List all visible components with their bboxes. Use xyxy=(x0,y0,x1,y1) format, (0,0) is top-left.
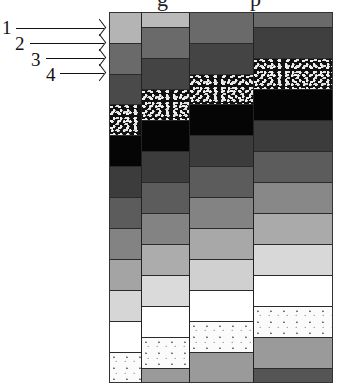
gray-layer xyxy=(190,260,253,291)
gray-layer xyxy=(190,353,253,383)
label-4: 4 xyxy=(46,65,56,84)
speckled-layer xyxy=(142,90,189,121)
dotted-layer xyxy=(254,307,333,338)
gray-layer xyxy=(190,13,253,44)
gray-layer xyxy=(110,44,141,75)
speckled-layer xyxy=(190,75,253,105)
column-3 xyxy=(190,13,254,383)
gray-layer xyxy=(142,276,189,307)
column-1 xyxy=(110,13,142,383)
gray-layer xyxy=(254,90,333,121)
title-fragment-left: g xyxy=(157,0,168,12)
arrow-right-icon xyxy=(46,58,104,59)
dotted-layer xyxy=(142,338,189,369)
gray-layer xyxy=(110,322,141,353)
gray-layer xyxy=(142,183,189,214)
layered-block-diagram xyxy=(109,12,333,383)
gray-layer xyxy=(142,28,189,59)
speckled-layer xyxy=(110,105,141,136)
gray-layer xyxy=(142,152,189,183)
gray-layer xyxy=(190,167,253,198)
gray-layer xyxy=(190,229,253,260)
label-3: 3 xyxy=(31,50,41,69)
gray-layer xyxy=(254,183,333,214)
gray-layer xyxy=(110,229,141,260)
gray-layer xyxy=(110,167,141,198)
dotted-layer xyxy=(110,353,141,383)
gray-layer xyxy=(254,214,333,245)
arrow-right-icon xyxy=(30,43,104,44)
gray-layer xyxy=(190,198,253,229)
dotted-layer xyxy=(190,322,253,353)
column-2 xyxy=(142,13,190,383)
gray-layer xyxy=(142,307,189,338)
gray-layer xyxy=(110,198,141,229)
gray-layer xyxy=(254,121,333,152)
gray-layer xyxy=(254,276,333,307)
clipped-title: g p xyxy=(0,0,339,6)
arrow-right-icon xyxy=(16,28,104,29)
gray-layer xyxy=(254,13,333,28)
gray-layer xyxy=(110,136,141,167)
column-4 xyxy=(254,13,333,383)
gray-layer xyxy=(110,260,141,291)
gray-layer xyxy=(142,121,189,152)
gray-layer xyxy=(254,369,333,383)
arrow-right-icon xyxy=(60,73,104,74)
gray-layer xyxy=(110,13,141,44)
gray-layer xyxy=(110,291,141,322)
gray-layer xyxy=(190,105,253,136)
title-fragment-right: p xyxy=(250,0,261,12)
gray-layer xyxy=(142,13,189,28)
gray-layer xyxy=(190,136,253,167)
label-1: 1 xyxy=(2,18,12,37)
speckled-layer xyxy=(254,59,333,90)
gray-layer xyxy=(254,28,333,59)
label-2: 2 xyxy=(15,34,25,53)
gray-layer xyxy=(142,214,189,245)
gray-layer xyxy=(254,152,333,183)
gray-layer xyxy=(254,338,333,369)
gray-layer xyxy=(254,245,333,276)
gray-layer xyxy=(190,291,253,322)
gray-layer xyxy=(142,369,189,383)
gray-layer xyxy=(142,59,189,90)
gray-layer xyxy=(110,75,141,105)
gray-layer xyxy=(142,245,189,276)
gray-layer xyxy=(190,44,253,75)
